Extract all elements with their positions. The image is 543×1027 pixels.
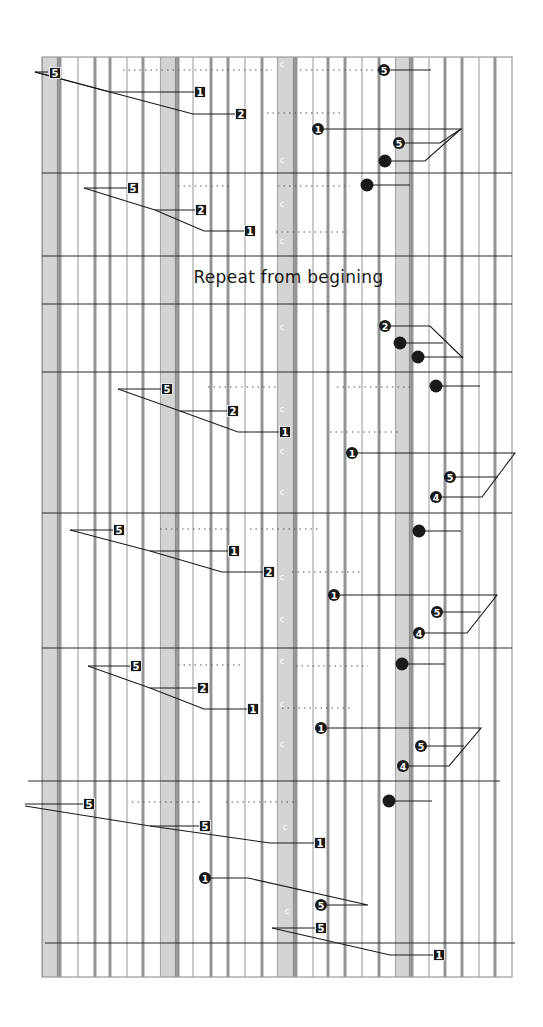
marker-label: 1 bbox=[282, 427, 289, 438]
marker-label: 1 bbox=[197, 87, 204, 98]
note-circle-marker: 5 bbox=[444, 471, 456, 483]
marker-label: 5 bbox=[133, 661, 140, 672]
marker-label: 2 bbox=[200, 683, 207, 694]
note-dot-marker bbox=[383, 795, 396, 808]
tine-mark: c bbox=[280, 60, 284, 69]
tine-mark: c bbox=[280, 447, 284, 456]
marker-label: 5 bbox=[447, 472, 454, 483]
marker-label: 4 bbox=[416, 628, 423, 639]
note-square-marker: 5 bbox=[114, 525, 125, 537]
note-circle-marker: 4 bbox=[397, 760, 409, 772]
note-dot-marker bbox=[412, 351, 425, 364]
note-square-marker: 5 bbox=[162, 384, 173, 396]
note-square-marker: 5 bbox=[128, 183, 139, 195]
dot-icon bbox=[383, 795, 396, 808]
marker-label: 1 bbox=[318, 723, 325, 734]
tine-mark: c bbox=[280, 740, 284, 749]
note-circle-marker: 4 bbox=[413, 627, 425, 639]
marker-label: 5 bbox=[164, 384, 171, 395]
note-square-marker: 1 bbox=[280, 427, 291, 439]
note-square-marker: 2 bbox=[196, 205, 207, 217]
note-circle-marker: 1 bbox=[328, 589, 340, 601]
marker-label: 1 bbox=[231, 546, 238, 557]
note-square-marker: 1 bbox=[248, 704, 259, 716]
marker-label: 5 bbox=[52, 68, 59, 79]
marker-label: 5 bbox=[381, 65, 388, 76]
note-square-marker: 1 bbox=[315, 838, 326, 850]
note-square-marker: 1 bbox=[229, 546, 240, 558]
dot-icon bbox=[412, 351, 425, 364]
tine-mark: c bbox=[280, 237, 284, 246]
marker-label: 2 bbox=[266, 567, 273, 578]
tine-mark: c bbox=[280, 405, 284, 414]
marker-label: 2 bbox=[230, 406, 237, 417]
tine-mark: c bbox=[280, 573, 284, 582]
note-square-marker: 1 bbox=[434, 950, 445, 962]
tine-mark: c bbox=[280, 156, 284, 165]
tine-mark: c bbox=[283, 823, 287, 832]
note-circle-marker: 1 bbox=[312, 123, 324, 135]
tine-mark: c bbox=[285, 907, 289, 916]
note-square-marker: 2 bbox=[236, 109, 247, 121]
tine-mark: c bbox=[280, 488, 284, 497]
note-square-marker: 2 bbox=[264, 567, 275, 579]
note-circle-marker: 5 bbox=[378, 64, 390, 76]
marker-label: 2 bbox=[198, 205, 205, 216]
note-square-marker: 5 bbox=[316, 923, 327, 935]
note-circle-marker: 5 bbox=[415, 740, 427, 752]
marker-label: 5 bbox=[116, 525, 123, 536]
tine-mark: c bbox=[280, 657, 284, 666]
marker-label: 2 bbox=[238, 109, 245, 120]
marker-label: 1 bbox=[436, 950, 443, 961]
marker-label: 1 bbox=[250, 704, 257, 715]
note-circle-marker: 5 bbox=[315, 899, 327, 911]
note-dot-marker bbox=[379, 155, 392, 168]
marker-label: 5 bbox=[318, 923, 325, 934]
note-square-marker: 5 bbox=[84, 799, 95, 811]
marker-label: 5 bbox=[202, 821, 209, 832]
note-circle-marker: 2 bbox=[379, 320, 391, 332]
note-square-marker: 2 bbox=[198, 683, 209, 695]
marker-label: 5 bbox=[130, 183, 137, 194]
dot-icon bbox=[394, 337, 407, 350]
note-square-marker: 5 bbox=[50, 68, 61, 80]
note-circle-marker: 1 bbox=[346, 447, 358, 459]
dot-icon bbox=[361, 179, 374, 192]
dot-icon bbox=[413, 525, 426, 538]
marker-label: 4 bbox=[400, 761, 407, 772]
marker-label: 5 bbox=[396, 138, 403, 149]
tine-mark: c bbox=[280, 200, 284, 209]
dot-icon bbox=[396, 658, 409, 671]
note-dot-marker bbox=[361, 179, 374, 192]
note-dot-marker bbox=[430, 380, 443, 393]
note-dot-marker bbox=[394, 337, 407, 350]
marker-label: 1 bbox=[247, 226, 254, 237]
marker-label: 4 bbox=[433, 492, 440, 503]
note-square-marker: 1 bbox=[245, 226, 256, 238]
marker-label: 1 bbox=[349, 448, 356, 459]
note-square-marker: 2 bbox=[228, 406, 239, 418]
marker-label: 2 bbox=[382, 321, 389, 332]
tine-mark: c bbox=[280, 323, 284, 332]
note-circle-marker: 4 bbox=[430, 491, 442, 503]
note-square-marker: 5 bbox=[200, 821, 211, 833]
note-dot-marker bbox=[396, 658, 409, 671]
measure-lines bbox=[28, 173, 515, 943]
kalimba-tablature-sheet: ccccccccccccccc 512515521252115451215452… bbox=[0, 0, 543, 1027]
marker-label: 5 bbox=[418, 741, 425, 752]
marker-label: 1 bbox=[315, 124, 322, 135]
marker-label: 5 bbox=[318, 900, 325, 911]
note-connector bbox=[358, 453, 515, 497]
note-square-marker: 5 bbox=[131, 661, 142, 673]
note-square-marker: 1 bbox=[195, 87, 206, 99]
note-circle-marker: 1 bbox=[315, 722, 327, 734]
marker-label: 1 bbox=[202, 873, 209, 884]
dot-icon bbox=[430, 380, 443, 393]
note-circle-marker: 5 bbox=[431, 606, 443, 618]
tine-mark: c bbox=[280, 615, 284, 624]
note-circle-marker: 1 bbox=[199, 872, 211, 884]
marker-label: 5 bbox=[434, 607, 441, 618]
dot-icon bbox=[379, 155, 392, 168]
marker-label: 5 bbox=[86, 799, 93, 810]
marker-label: 1 bbox=[317, 838, 324, 849]
